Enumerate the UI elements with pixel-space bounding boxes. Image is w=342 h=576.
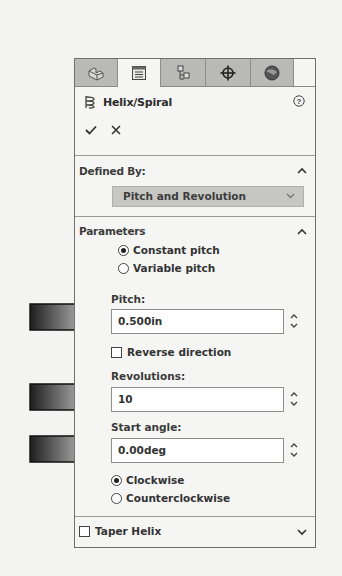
- separator: [75, 516, 315, 517]
- appearance-sphere-icon: [264, 65, 280, 81]
- checkmark-icon[interactable]: [85, 125, 97, 135]
- radio-label: Clockwise: [126, 474, 184, 486]
- taper-helix-checkbox[interactable]: Taper Helix: [79, 525, 161, 537]
- revolutions-spinner[interactable]: [289, 387, 299, 411]
- pitch-input[interactable]: 0.500in: [111, 309, 284, 334]
- radio-unselected: [118, 263, 129, 274]
- ok-cancel-row: [85, 125, 121, 135]
- feature-title-row: Helix/Spiral: [83, 94, 172, 110]
- radio-label: Constant pitch: [133, 244, 220, 256]
- clockwise-radio[interactable]: Clockwise: [111, 474, 184, 486]
- helix-spiral-propertymanager: Helix/Spiral ? Defined By: Pitch and Rev…: [74, 58, 316, 548]
- chevron-down-icon[interactable]: [297, 529, 307, 536]
- chevron-up-icon[interactable]: [297, 167, 307, 174]
- revolutions-label: Revolutions:: [111, 370, 185, 382]
- checkbox-label: Reverse direction: [127, 346, 231, 358]
- feature-title: Helix/Spiral: [103, 96, 172, 109]
- chevron-down-icon: [286, 193, 295, 199]
- revolutions-input[interactable]: 10: [111, 387, 284, 412]
- helix-icon: [83, 95, 96, 109]
- start-angle-spinner[interactable]: [289, 438, 299, 462]
- dimxpertmanager-tab[interactable]: [206, 59, 251, 86]
- close-icon[interactable]: [111, 125, 121, 135]
- start-angle-label: Start angle:: [111, 421, 182, 433]
- separator: [75, 216, 315, 217]
- parameters-section-title: Parameters: [79, 225, 145, 237]
- displaymanager-tab[interactable]: [251, 59, 294, 86]
- configuration-icon: [175, 65, 191, 81]
- separator: [75, 155, 315, 156]
- constant-pitch-radio[interactable]: Constant pitch: [118, 244, 220, 256]
- pitch-spinner[interactable]: [289, 309, 299, 333]
- property-list-icon: [131, 65, 147, 81]
- crosshair-icon: [220, 65, 236, 81]
- checkbox-box: [111, 347, 122, 358]
- start-angle-input[interactable]: 0.00deg: [111, 438, 284, 463]
- defined-by-section-title: Defined By:: [79, 165, 146, 177]
- counterclockwise-radio[interactable]: Counterclockwise: [111, 492, 230, 504]
- svg-text:?: ?: [297, 97, 302, 106]
- checkbox-box: [79, 526, 90, 537]
- defined-by-selected: Pitch and Revolution: [123, 190, 246, 202]
- part-icon: [87, 65, 105, 81]
- help-icon[interactable]: ?: [293, 95, 305, 107]
- checkbox-label: Taper Helix: [95, 525, 161, 537]
- defined-by-dropdown[interactable]: Pitch and Revolution: [112, 186, 304, 207]
- chevron-up-icon[interactable]: [297, 228, 307, 235]
- reverse-direction-checkbox[interactable]: Reverse direction: [111, 346, 231, 358]
- pitch-label: Pitch:: [111, 293, 145, 305]
- configurationmanager-tab[interactable]: [161, 59, 206, 86]
- manager-tab-bar: [75, 59, 315, 87]
- radio-label: Counterclockwise: [126, 492, 230, 504]
- radio-selected: [111, 475, 122, 486]
- propertymanager-tab[interactable]: [118, 59, 161, 87]
- radio-label: Variable pitch: [133, 262, 215, 274]
- variable-pitch-radio[interactable]: Variable pitch: [118, 262, 215, 274]
- featuremanager-tab[interactable]: [75, 59, 118, 86]
- radio-selected: [118, 245, 129, 256]
- radio-unselected: [111, 493, 122, 504]
